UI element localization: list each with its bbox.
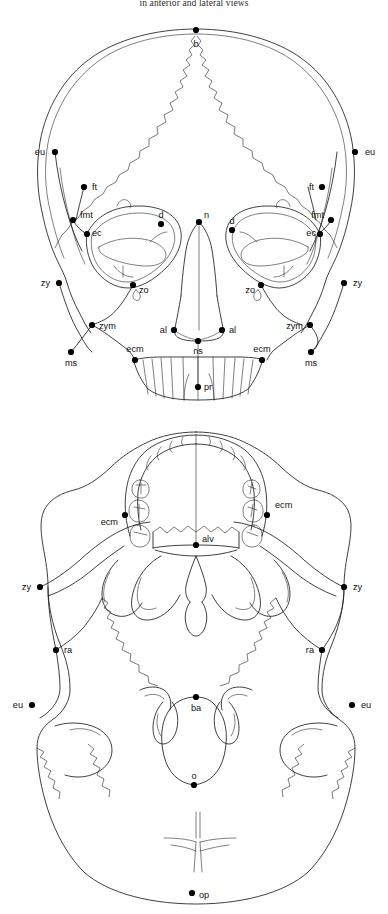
landmark-dot-eu — [52, 149, 58, 155]
landmark-group-anterior: beueuftftfmtfmtececddnzyzyzozozymzymmsms… — [35, 27, 375, 392]
landmark-dot-ec — [317, 231, 323, 237]
landmark-o: o — [191, 771, 197, 788]
landmark-ec: ec — [84, 228, 102, 238]
landmark-label-zy: zy — [22, 582, 32, 592]
landmark-label-zy: zy — [41, 278, 51, 288]
landmark-ecm: ecm — [253, 344, 271, 363]
landmark-dot-eu — [352, 149, 358, 155]
landmark-label-eu: eu — [13, 700, 23, 710]
landmark-dot-ec — [84, 231, 90, 237]
landmark-label-o: o — [191, 771, 196, 781]
landmark-dot-op — [189, 890, 195, 896]
landmark-pr: pr — [195, 382, 212, 392]
landmark-label-ns: ns — [193, 346, 203, 356]
landmark-dot-zo — [130, 282, 136, 288]
landmark-label-ft: ft — [309, 182, 315, 192]
landmark-dot-zym — [89, 322, 95, 328]
landmark-dot-zym — [307, 322, 313, 328]
landmark-d: d — [229, 216, 235, 233]
landmark-label-eu: eu — [35, 147, 45, 157]
landmark-dot-n — [196, 219, 202, 225]
landmark-dot-fmt — [328, 217, 334, 223]
landmark-eu: eu — [352, 147, 375, 157]
landmark-dot-zy — [341, 584, 347, 590]
landmark-label-zy: zy — [353, 582, 363, 592]
landmark-dot-ra — [319, 647, 325, 653]
landmark-dot-b — [193, 27, 199, 33]
anterior-view-skull: beueuftftfmtfmtececddnzyzyzozozymzymmsms… — [0, 18, 388, 408]
landmark-dot-pr — [195, 384, 201, 390]
landmark-label-n: n — [204, 210, 209, 220]
landmark-zy: zy — [341, 278, 363, 288]
landmark-label-ft: ft — [92, 182, 98, 192]
landmark-ecm: ecm — [126, 344, 144, 363]
landmark-dot-al — [219, 327, 225, 333]
landmark-label-zym: zym — [286, 321, 303, 331]
landmark-label-ba: ba — [191, 703, 202, 713]
landmark-dot-ms — [68, 349, 74, 355]
landmark-label-ecm: ecm — [275, 500, 293, 510]
landmark-ecm: ecm — [264, 500, 293, 518]
landmark-dot-ms — [308, 349, 314, 355]
landmark-zy: zy — [22, 582, 43, 592]
landmark-dot-ra — [53, 647, 59, 653]
landmark-eu: eu — [349, 700, 371, 710]
landmark-fmt: fmt — [70, 210, 93, 223]
landmark-dot-zy — [341, 280, 347, 286]
landmark-label-zym: zym — [99, 321, 116, 331]
landmark-dot-ecm — [264, 512, 270, 518]
landmark-al: al — [219, 325, 236, 335]
figure-caption-top: in anterior and lateral views — [0, 0, 388, 9]
landmark-label-fmt: fmt — [80, 210, 93, 220]
landmark-d: d — [158, 210, 164, 227]
landmark-label-eu: eu — [361, 700, 371, 710]
landmark-dot-zo — [258, 282, 264, 288]
landmark-dot-fmt — [70, 217, 76, 223]
landmark-label-ms: ms — [305, 358, 318, 368]
landmark-dot-o — [191, 782, 197, 788]
landmark-label-ec: ec — [92, 228, 102, 238]
landmark-label-eu: eu — [365, 147, 375, 157]
landmark-dot-alv — [193, 542, 199, 548]
landmark-dot-eu — [349, 702, 355, 708]
landmark-group-basal: ecmecmalvzyzyraraeueubaoop — [13, 500, 371, 900]
landmark-dot-zy — [56, 280, 62, 286]
landmark-label-al: al — [229, 325, 236, 335]
landmark-eu: eu — [13, 700, 35, 710]
landmark-dot-d — [158, 221, 164, 227]
nasal-aperture-anterior — [59, 222, 344, 387]
landmark-zo: zo — [245, 282, 264, 295]
landmark-ecm: ecm — [101, 512, 128, 527]
landmark-label-zo: zo — [139, 285, 149, 295]
landmark-label-fmt: fmt — [311, 210, 324, 220]
landmark-zym: zym — [286, 321, 313, 331]
landmark-label-alv: alv — [202, 534, 214, 544]
landmark-label-ecm: ecm — [101, 517, 119, 527]
palate-and-teeth-basal — [125, 435, 267, 556]
landmark-dot-ecm — [132, 357, 138, 363]
landmark-dot-ecm — [122, 512, 128, 518]
landmark-label-ecm: ecm — [126, 344, 144, 354]
landmark-ra: ra — [53, 645, 73, 655]
landmark-label-ra: ra — [64, 645, 73, 655]
landmark-label-op: op — [199, 890, 209, 900]
landmark-ft: ft — [309, 182, 325, 192]
landmark-label-ra: ra — [306, 645, 315, 655]
landmark-zo: zo — [130, 282, 149, 295]
landmark-dot-ft — [319, 184, 325, 190]
landmark-n: n — [196, 210, 209, 225]
maxillary-teeth-anterior — [134, 357, 264, 400]
landmark-label-ms: ms — [65, 358, 78, 368]
landmark-ms: ms — [65, 349, 78, 368]
landmark-label-zo: zo — [245, 285, 255, 295]
landmark-dot-ns — [195, 338, 201, 344]
landmark-label-ecm: ecm — [253, 344, 271, 354]
landmark-zy: zy — [41, 278, 62, 288]
landmark-dot-d — [229, 227, 235, 233]
landmark-label-b: b — [193, 39, 198, 49]
landmark-label-zy: zy — [353, 278, 363, 288]
landmark-label-d: d — [229, 216, 234, 226]
landmark-dot-al — [171, 327, 177, 333]
basal-view-skull: ecmecmalvzyzyraraeueubaoop — [0, 420, 388, 914]
landmark-b: b — [193, 27, 199, 49]
